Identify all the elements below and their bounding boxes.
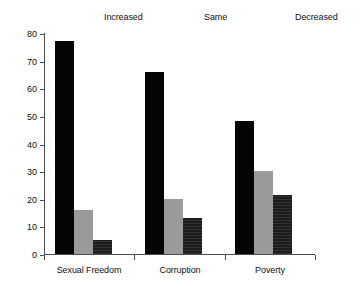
bar[interactable] [164, 199, 183, 254]
chart-legend: IncreasedSameDecreased [0, 9, 364, 25]
x-axis-tick [44, 255, 45, 260]
bar[interactable] [273, 195, 292, 254]
legend-swatch-same [157, 13, 198, 22]
y-axis-tick [40, 89, 44, 90]
y-axis-tick-label: 20 [27, 195, 37, 204]
legend-swatch-decreased [248, 13, 289, 22]
bar[interactable] [74, 210, 93, 254]
legend-item-increased[interactable]: Increased [57, 9, 143, 25]
bar[interactable] [145, 72, 164, 254]
legend-item-same[interactable]: Same [157, 9, 227, 25]
x-axis-line [44, 254, 315, 255]
y-axis-tick [40, 172, 44, 173]
legend-swatch-increased [57, 13, 98, 22]
y-axis-tick [40, 62, 44, 63]
y-axis-tick-label: 40 [27, 140, 37, 149]
legend-item-decreased[interactable]: Decreased [248, 9, 338, 25]
y-axis-tick [40, 145, 44, 146]
bar-chart: IncreasedSameDecreased 01020304050607080… [0, 0, 364, 305]
plot-area: 01020304050607080 Sexual FreedomCorrupti… [44, 33, 315, 255]
y-axis-tick-label: 80 [27, 30, 37, 39]
bar[interactable] [254, 171, 273, 254]
y-axis-tick [40, 34, 44, 35]
bar[interactable] [183, 218, 202, 254]
y-axis-tick [40, 200, 44, 201]
x-axis-tick [225, 255, 226, 260]
bar[interactable] [93, 240, 112, 254]
y-axis-tick-label: 60 [27, 85, 37, 94]
bar[interactable] [55, 41, 74, 254]
legend-label-decreased: Decreased [295, 13, 338, 22]
y-axis-tick-label: 0 [32, 251, 37, 260]
y-axis-tick-label: 10 [27, 223, 37, 232]
x-axis-tick [134, 255, 135, 260]
y-axis-tick-label: 50 [27, 112, 37, 121]
legend-label-same: Same [204, 13, 227, 22]
y-axis-tick-label: 30 [27, 168, 37, 177]
y-axis-tick-label: 70 [27, 57, 37, 66]
legend-label-increased: Increased [104, 13, 143, 22]
bar[interactable] [235, 121, 254, 254]
y-axis-tick [40, 227, 44, 228]
y-axis-tick [40, 117, 44, 118]
y-axis-line [44, 33, 45, 255]
x-axis-category-label: Corruption [159, 266, 200, 275]
x-axis-category-label: Sexual Freedom [57, 266, 122, 275]
x-axis-category-label: Poverty [255, 266, 285, 275]
x-axis-tick [315, 255, 316, 260]
